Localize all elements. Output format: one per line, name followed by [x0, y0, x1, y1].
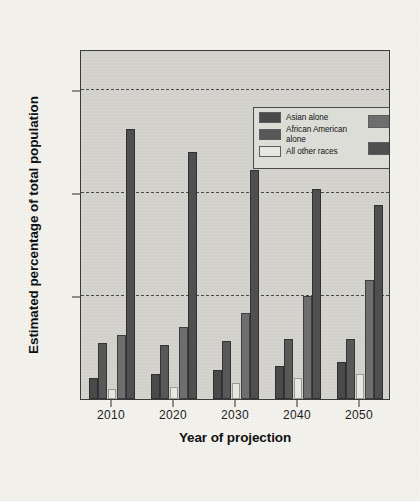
x-tick-mark-2040: [297, 400, 298, 407]
bar-2050-asian-alone: [337, 362, 346, 399]
x-axis-title: Year of projection: [80, 430, 390, 445]
bar-2040-white-alone-non-hispanic: [312, 189, 321, 399]
bar-2040-asian-alone: [275, 366, 284, 399]
bar-2010-african-american-alone: [98, 343, 107, 399]
bar-2020-all-other-races: [170, 387, 179, 399]
legend-entry-white-alone-hispanic: White alone, Hispanic: [368, 112, 390, 131]
bar-2030-white-alone-non-hispanic: [250, 170, 259, 399]
y-tick-mark-50: [72, 194, 80, 195]
x-tick-mark-2020: [173, 400, 174, 407]
legend-column-left: Asian aloneAfrican American aloneAll oth…: [254, 112, 366, 168]
legend-entry-all-other-races: All other races: [259, 146, 366, 157]
legend-swatch-icon: [259, 146, 281, 157]
bar-2020-white-alone-hispanic: [179, 327, 188, 399]
legend-swatch-icon: [368, 115, 390, 128]
x-tick-label-2040: 2040: [283, 408, 311, 422]
bar-2010-all-other-races: [108, 389, 117, 399]
y-axis-title: Estimated percentage of total population: [22, 50, 44, 400]
legend-swatch-icon: [259, 112, 281, 123]
x-tick-mark-2030: [235, 400, 236, 407]
y-tick-mark-25: [72, 297, 80, 298]
plot-area: Asian aloneAfrican American aloneAll oth…: [80, 50, 390, 400]
bar-2020-african-american-alone: [160, 345, 169, 399]
bar-2020-white-alone-non-hispanic: [188, 152, 197, 399]
x-tick-label-2020: 2020: [159, 408, 187, 422]
bar-2030-asian-alone: [213, 370, 222, 399]
bar-2040-white-alone-hispanic: [303, 296, 312, 399]
bar-2040-all-other-races: [294, 378, 303, 399]
bar-2050-white-alone-non-hispanic: [374, 205, 383, 399]
legend-column-right: White alone, HispanicWhite alone, non Hi…: [366, 112, 390, 168]
legend-swatch-icon: [368, 142, 390, 155]
x-tick-label-2030: 2030: [221, 408, 249, 422]
bar-2050-african-american-alone: [346, 339, 355, 399]
bar-2030-all-other-races: [232, 383, 241, 399]
legend-label: All other races: [286, 147, 338, 157]
bar-2050-white-alone-hispanic: [365, 280, 374, 399]
bar-2050-all-other-races: [356, 374, 365, 399]
chart-legend: Asian aloneAfrican American aloneAll oth…: [253, 107, 390, 169]
bar-2010-asian-alone: [89, 378, 98, 399]
gridline-75: [81, 89, 389, 90]
bar-2010-white-alone-hispanic: [117, 335, 126, 399]
legend-entry-white-alone-non-hispanic: White alone, non Hispanic: [368, 138, 390, 157]
legend-swatch-icon: [259, 129, 281, 140]
bar-2020-asian-alone: [151, 374, 160, 399]
bar-2010-white-alone-non-hispanic: [126, 129, 135, 399]
x-tick-label-2050: 2050: [345, 408, 373, 422]
x-tick-mark-2010: [111, 400, 112, 407]
legend-entry-asian-alone: Asian alone: [259, 112, 366, 123]
x-tick-label-2010: 2010: [97, 408, 125, 422]
bar-2030-african-american-alone: [222, 341, 231, 399]
legend-label: Asian alone: [286, 113, 328, 123]
y-tick-mark-75: [72, 91, 80, 92]
bar-2030-white-alone-hispanic: [241, 313, 250, 399]
legend-label: African American alone: [286, 125, 366, 144]
x-tick-mark-2050: [359, 400, 360, 407]
chart-figure: Estimated percentage of total population…: [0, 0, 420, 501]
legend-entry-african-american-alone: African American alone: [259, 125, 366, 144]
bar-2040-african-american-alone: [284, 339, 293, 399]
